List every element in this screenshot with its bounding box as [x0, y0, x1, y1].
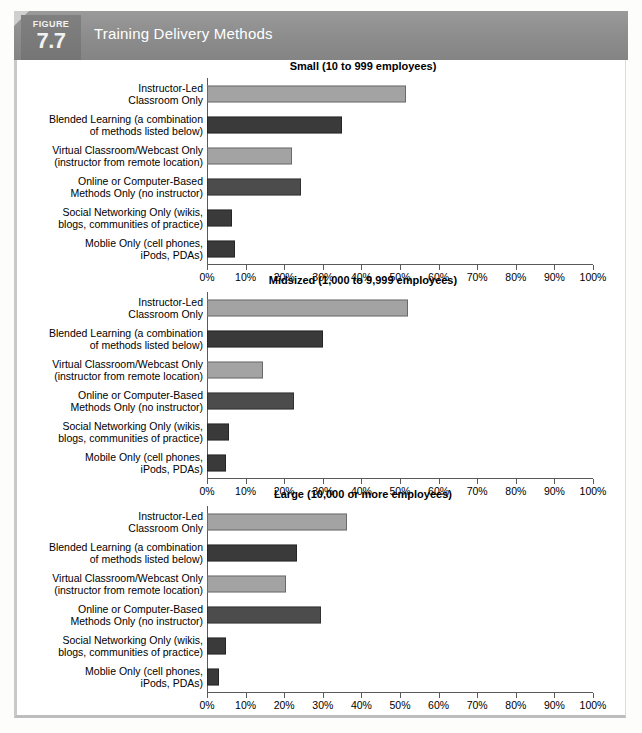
chart-title: Small (10 to 999 employees) [17, 60, 629, 72]
axis-tick-label: 10% [235, 699, 256, 711]
category-label: Blended Learning (a combination of metho… [0, 112, 203, 137]
bar-row: Virtual Classroom/Webcast Only (instruct… [207, 568, 593, 599]
bar-row: Social Networking Only (wikis, blogs, co… [207, 630, 593, 661]
bar [207, 178, 301, 195]
figure-banner: FIGURE 7.7 Training Delivery Methods [14, 11, 628, 60]
axis-tick [516, 479, 517, 484]
plot-area: Instructor-Led Classroom OnlyBlended Lea… [207, 78, 593, 264]
category-label: Online or Computer-Based Methods Only (n… [0, 388, 203, 413]
category-label: Virtual Classroom/Webcast Only (instruct… [0, 571, 203, 596]
category-label: Blended Learning (a combination of metho… [0, 540, 203, 565]
bar [207, 330, 323, 347]
category-label: Social Networking Only (wikis, blogs, co… [0, 419, 203, 444]
figure-page: FIGURE 7.7 Training Delivery Methods Sma… [0, 0, 642, 733]
axis-tick [400, 265, 401, 270]
bar [207, 392, 294, 409]
bar-row: Moblie Only (cell phones, iPods, PDAs) [207, 661, 593, 692]
bar-row: Blended Learning (a combination of metho… [207, 109, 593, 140]
bar-row: Social Networking Only (wikis, blogs, co… [207, 416, 593, 447]
axis-tick-label: 50% [389, 699, 410, 711]
bar [207, 116, 342, 133]
bar [207, 606, 321, 623]
bar-row: Blended Learning (a combination of metho… [207, 537, 593, 568]
bar [207, 209, 232, 226]
chart-panel-2: Midsized (1,000 to 9,999 employees)Instr… [17, 274, 629, 488]
category-label: Online or Computer-Based Methods Only (n… [0, 174, 203, 199]
bar-row: Mobile Only (cell phones, iPods, PDAs) [207, 447, 593, 478]
bar-row: Social Networking Only (wikis, blogs, co… [207, 202, 593, 233]
category-label: Social Networking Only (wikis, blogs, co… [0, 205, 203, 230]
axis-tick [477, 479, 478, 484]
chart-title: Midsized (1,000 to 9,999 employees) [17, 274, 629, 286]
axis-tick-label: 80% [505, 699, 526, 711]
category-label: Instructor-Led Classroom Only [0, 81, 203, 106]
chart-panel-1: Small (10 to 999 employees)Instructor-Le… [17, 60, 629, 274]
axis-tick [554, 693, 555, 698]
category-label: Blended Learning (a combination of metho… [0, 326, 203, 351]
bar-row: Instructor-Led Classroom Only [207, 292, 593, 323]
axis-tick [593, 693, 594, 698]
bar-row: Moblie Only (cell phones, iPods, PDAs) [207, 233, 593, 264]
axis-tick-label: 0% [199, 699, 214, 711]
axis-tick [323, 693, 324, 698]
category-label: Moblie Only (cell phones, iPods, PDAs) [0, 664, 203, 689]
bar [207, 637, 226, 654]
axis-tick-label: 30% [312, 699, 333, 711]
axis-tick [516, 693, 517, 698]
chart-panel-3: Large (10,000 or more employees)Instruct… [17, 488, 629, 702]
axis-tick [439, 693, 440, 698]
bar [207, 240, 235, 257]
axis-tick [477, 265, 478, 270]
axis-tick [246, 265, 247, 270]
axis-tick [207, 693, 208, 698]
bar-row: Online or Computer-Based Methods Only (n… [207, 385, 593, 416]
axis-tick [323, 265, 324, 270]
x-axis-ticks: 0%10%20%30%40%50%60%70%80%90%100% [207, 693, 593, 715]
figure-number-block: FIGURE 7.7 [21, 15, 81, 60]
category-label: Moblie Only (cell phones, iPods, PDAs) [0, 236, 203, 261]
bar-row: Blended Learning (a combination of metho… [207, 323, 593, 354]
axis-tick [477, 693, 478, 698]
figure-body: Small (10 to 999 employees)Instructor-Le… [14, 60, 626, 718]
bar [207, 575, 286, 592]
bar [207, 668, 219, 685]
chart-title: Large (10,000 or more employees) [17, 488, 629, 500]
bar [207, 454, 226, 471]
bar [207, 147, 292, 164]
axis-tick [284, 479, 285, 484]
figure-title: Training Delivery Methods [94, 25, 273, 42]
category-label: Online or Computer-Based Methods Only (n… [0, 602, 203, 627]
axis-tick-label: 90% [544, 699, 565, 711]
bar [207, 544, 297, 561]
axis-tick-label: 70% [467, 699, 488, 711]
category-label: Virtual Classroom/Webcast Only (instruct… [0, 143, 203, 168]
axis-tick [284, 265, 285, 270]
category-label: Instructor-Led Classroom Only [0, 295, 203, 320]
bar [207, 361, 263, 378]
category-label: Mobile Only (cell phones, iPods, PDAs) [0, 450, 203, 475]
axis-tick [593, 265, 594, 270]
axis-tick [323, 479, 324, 484]
bar [207, 513, 347, 530]
axis-tick [207, 479, 208, 484]
axis-tick [516, 265, 517, 270]
axis-tick [284, 693, 285, 698]
axis-tick-label: 40% [351, 699, 372, 711]
chart-stack: Small (10 to 999 employees)Instructor-Le… [17, 60, 625, 702]
axis-tick [400, 693, 401, 698]
bar [207, 423, 229, 440]
axis-tick [246, 693, 247, 698]
axis-tick-label: 100% [580, 699, 607, 711]
axis-tick-label: 20% [274, 699, 295, 711]
category-label: Instructor-Led Classroom Only [0, 509, 203, 534]
bar-row: Instructor-Led Classroom Only [207, 78, 593, 109]
category-label: Social Networking Only (wikis, blogs, co… [0, 633, 203, 658]
bar-row: Online or Computer-Based Methods Only (n… [207, 599, 593, 630]
bar-row: Online or Computer-Based Methods Only (n… [207, 171, 593, 202]
axis-tick [593, 479, 594, 484]
figure-number: 7.7 [21, 30, 81, 52]
axis-tick [361, 693, 362, 698]
axis-tick [361, 479, 362, 484]
category-label: Virtual Classroom/Webcast Only (instruct… [0, 357, 203, 382]
bar-row: Instructor-Led Classroom Only [207, 506, 593, 537]
